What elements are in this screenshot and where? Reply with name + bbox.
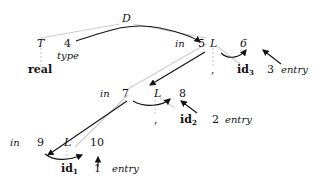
node-4: 4 xyxy=(64,38,71,49)
entry-attr-1: entry xyxy=(112,164,139,174)
node-D: D xyxy=(122,13,131,24)
comma-1: , xyxy=(211,64,215,75)
node-2: 2 xyxy=(212,114,219,125)
node-5: 5 xyxy=(198,38,205,49)
node-3: 3 xyxy=(267,64,274,75)
node-L2: L xyxy=(154,88,161,99)
node-1: 1 xyxy=(94,163,101,174)
node-6: 6 xyxy=(240,38,247,49)
id2-token: id2 xyxy=(180,114,197,126)
node-9: 9 xyxy=(37,137,44,148)
node-10: 10 xyxy=(90,137,104,148)
node-L3: L xyxy=(64,137,71,148)
real-token: real xyxy=(28,64,52,75)
entry-attr-2: entry xyxy=(225,115,252,125)
node-T: T xyxy=(37,38,44,49)
node-L1: L xyxy=(210,38,217,49)
type-attr-label: type xyxy=(57,51,79,61)
dependency-graph: D T 4 type real in 5 L 6 , id3 3 entry i… xyxy=(0,0,322,177)
in-attr-9: in xyxy=(10,138,20,148)
id1-token: id1 xyxy=(61,163,78,175)
comma-2: , xyxy=(154,114,158,125)
entry-attr-3: entry xyxy=(281,65,308,75)
node-7: 7 xyxy=(122,88,129,99)
node-8: 8 xyxy=(179,88,186,99)
in-attr-5: in xyxy=(175,39,185,49)
in-attr-7: in xyxy=(100,89,110,99)
id3-token: id3 xyxy=(237,64,254,76)
